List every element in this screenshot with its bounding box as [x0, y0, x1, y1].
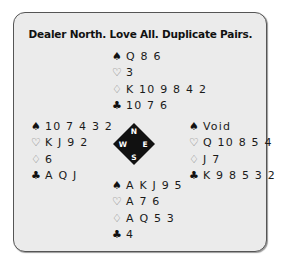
spade-icon: ♠	[112, 178, 126, 194]
east-clubs: K 9 8 5 3 2	[203, 169, 276, 182]
compass-diamond-icon: N E S W	[113, 123, 155, 165]
club-icon: ♣	[112, 98, 126, 114]
west-clubs: A Q J	[45, 169, 77, 182]
west-hand: ♠10 7 4 3 2 ♡K J 9 2 ♢6 ♣A Q J	[31, 119, 113, 184]
east-hearts: Q 10 8 5 4	[203, 136, 273, 149]
spade-icon: ♠	[189, 119, 203, 135]
north-clubs: 10 7 6	[126, 99, 168, 112]
diamond-icon: ♢	[112, 211, 126, 227]
south-clubs: 4	[126, 228, 134, 241]
west-diamonds: 6	[45, 153, 53, 166]
spade-icon: ♠	[112, 49, 126, 65]
south-hand: ♠A K J 9 5 ♡A 7 6 ♢A Q 5 3 ♣4	[112, 178, 183, 243]
north-diamonds: K 10 9 8 4 2	[126, 83, 207, 96]
compass-e: E	[142, 140, 147, 149]
east-hand: ♠Void ♡Q 10 8 5 4 ♢J 7 ♣K 9 8 5 3 2	[189, 119, 276, 184]
south-diamonds: A Q 5 3	[126, 212, 175, 225]
north-hand: ♠Q 8 6 ♡3 ♢K 10 9 8 4 2 ♣10 7 6	[112, 49, 207, 114]
spade-icon: ♠	[31, 119, 45, 135]
compass-w: W	[119, 140, 128, 149]
club-icon: ♣	[31, 168, 45, 184]
east-spades: Void	[203, 120, 231, 133]
west-spades: 10 7 4 3 2	[45, 120, 113, 133]
club-icon: ♣	[189, 168, 203, 184]
compass-rose: N E S W	[113, 123, 155, 165]
deal-title: Dealer North. Love All. Duplicate Pairs.	[0, 28, 281, 40]
diamond-icon: ♢	[31, 152, 45, 168]
west-hearts: K J 9 2	[45, 136, 88, 149]
heart-icon: ♡	[189, 135, 203, 151]
heart-icon: ♡	[112, 65, 126, 81]
club-icon: ♣	[112, 227, 126, 243]
east-diamonds: J 7	[203, 153, 220, 166]
south-hearts: A 7 6	[126, 195, 161, 208]
south-spades: A K J 9 5	[126, 179, 183, 192]
diamond-icon: ♢	[112, 82, 126, 98]
heart-icon: ♡	[31, 135, 45, 151]
diamond-icon: ♢	[189, 152, 203, 168]
heart-icon: ♡	[112, 194, 126, 210]
compass-n: N	[131, 127, 137, 136]
north-hearts: 3	[126, 66, 134, 79]
compass-s: S	[131, 153, 136, 162]
north-spades: Q 8 6	[126, 50, 162, 63]
